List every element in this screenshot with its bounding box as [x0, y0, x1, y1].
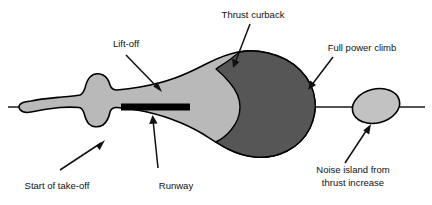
start-of-take-off-leader — [60, 143, 101, 170]
runway-arrowhead — [149, 115, 157, 124]
label-runway: Runway — [159, 180, 194, 191]
label-lift-off: Lift-off — [113, 38, 140, 49]
label-noise-island-line2: thrust increase — [322, 177, 384, 188]
noise-contour-diagram: Thrust curback Lift-off Full power climb… — [0, 0, 432, 205]
label-start-of-take-off: Start of take-off — [25, 180, 90, 191]
noise-island-shape — [349, 84, 404, 129]
runway-leader — [153, 120, 158, 168]
runway-bar — [121, 104, 190, 111]
label-thrust-curback: Thrust curback — [222, 9, 285, 20]
diagram-canvas: Thrust curback Lift-off Full power climb… — [0, 0, 432, 205]
label-noise-island-line1: Noise island from — [316, 164, 389, 175]
full-power-climb-leader — [311, 57, 333, 86]
start-of-take-off-arrowhead — [96, 140, 105, 150]
noise-island-leader — [345, 128, 368, 163]
lift-off-leader — [126, 55, 158, 88]
label-full-power-climb: Full power climb — [328, 42, 397, 53]
